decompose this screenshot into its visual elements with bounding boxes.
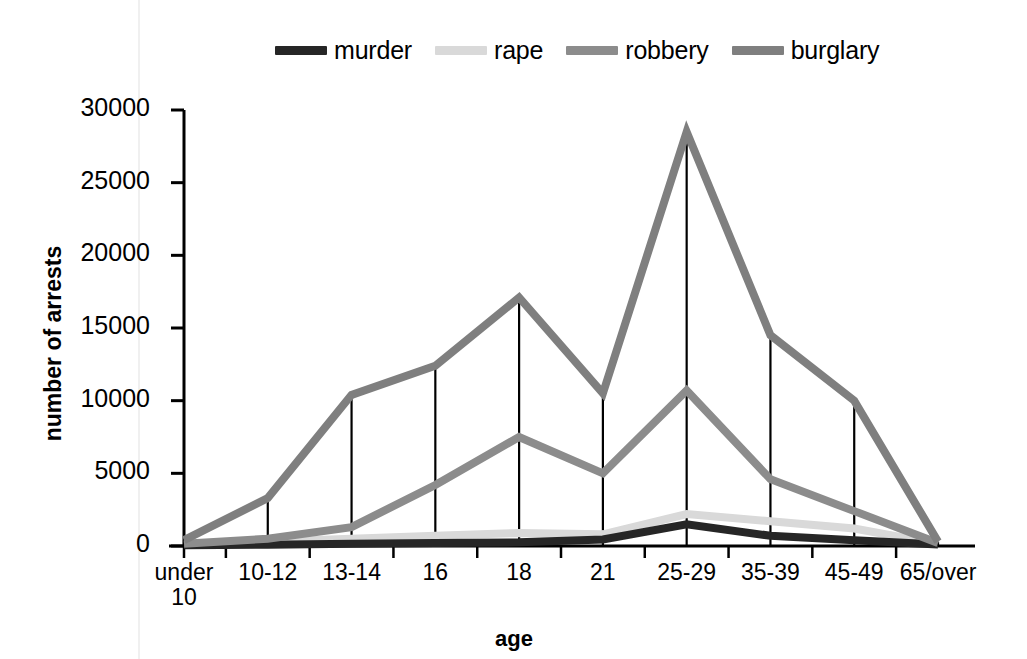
legend-label-rape: rape <box>494 38 543 63</box>
arrests-by-age-line-chart: number of arrests age 050001000015000200… <box>0 0 1027 659</box>
y-axis-tick-label: 30000 <box>30 95 150 120</box>
legend-item-robbery: robbery <box>566 38 708 63</box>
legend-swatch-burglary <box>732 46 784 55</box>
legend-swatch-murder <box>275 46 327 55</box>
legend-label-burglary: burglary <box>791 38 880 63</box>
y-axis-tick-label: 10000 <box>30 386 150 411</box>
y-axis-tick-label: 20000 <box>30 240 150 265</box>
legend-swatch-robbery <box>566 46 618 55</box>
x-axis-tick-label: 65/over <box>888 560 988 585</box>
y-axis-tick-label: 5000 <box>30 458 150 483</box>
legend-item-murder: murder <box>275 38 412 63</box>
legend-swatch-rape <box>435 46 487 55</box>
y-axis-tick-label: 25000 <box>30 168 150 193</box>
y-axis-tick-label: 0 <box>30 531 150 556</box>
x-axis-title: age <box>434 626 594 652</box>
legend-label-robbery: robbery <box>625 38 708 63</box>
chart-legend: murderraperobberyburglary <box>275 32 895 68</box>
legend-item-rape: rape <box>435 38 543 63</box>
series-line-burglary <box>184 132 938 542</box>
y-axis-tick-label: 15000 <box>30 313 150 338</box>
legend-item-burglary: burglary <box>732 38 880 63</box>
legend-label-murder: murder <box>334 38 412 63</box>
